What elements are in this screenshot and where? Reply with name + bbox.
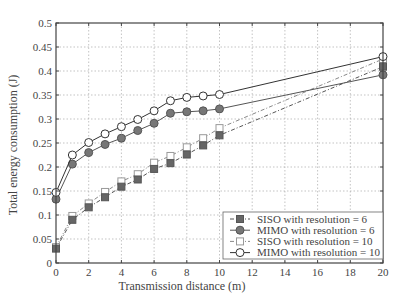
y-tick-label: 0.4 [38,65,52,77]
x-tick-label: 8 [184,266,190,278]
x-tick-label: 2 [86,266,92,278]
legend-label: MIMO with resolution = 6 [257,224,375,236]
x-tick-label: 20 [378,266,390,278]
y-tick-label: 0.05 [33,233,53,245]
x-tick-label: 16 [312,266,324,278]
legend: SISO with resolution = 6MIMO with resolu… [223,212,383,259]
x-axis-label: Transmission distance (m) [119,279,246,293]
y-tick-label: 0.15 [33,185,53,197]
y-tick-label: 0.45 [33,41,53,53]
x-tick-label: 10 [214,266,226,278]
y-tick-label: 0 [47,257,53,269]
y-tick-label: 0.2 [38,161,52,173]
y-tick-label: 0.3 [38,113,52,125]
y-tick-label: 0.1 [38,209,52,221]
x-tick-label: 12 [247,266,258,278]
y-tick-label: 0.5 [38,17,52,29]
x-tick-label: 18 [345,266,357,278]
x-tick-label: 4 [119,266,125,278]
line-chart: 02468101214161820 00.050.10.150.20.250.3… [0,0,406,307]
x-tick-label: 6 [151,266,157,278]
x-tick-label: 0 [53,266,59,278]
legend-label: SISO with resolution = 10 [257,235,373,247]
y-tick-label: 0.35 [33,89,53,101]
y-tick-label: 0.25 [33,137,53,149]
x-tick-label: 14 [279,266,291,278]
legend-label: MIMO with resolution = 10 [257,246,380,258]
legend-label: SISO with resolution = 6 [257,213,368,225]
y-axis-label: Total energy consumption (J) [6,75,20,216]
